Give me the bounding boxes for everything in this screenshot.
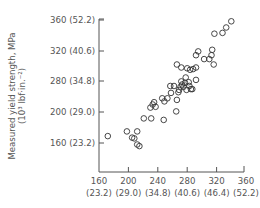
- y-tick-label: 320 (40.6): [50, 46, 95, 56]
- data-point-circle: [105, 133, 111, 139]
- data-point-circle: [179, 65, 185, 71]
- scatter-chart: 360 (52.2)320 (40.6)280 (34.8)200 (29.0)…: [0, 0, 260, 208]
- data-point-circle: [229, 19, 235, 25]
- y-axis-title-line2: (10³ lbf·in.⁻²): [17, 68, 27, 124]
- data-point-circle: [148, 116, 154, 122]
- y-tick-label: 200 (29.0): [50, 107, 95, 117]
- data-point-circle: [211, 62, 217, 68]
- y-axis-title-line1: Measured yield strength, MPa: [7, 32, 17, 159]
- data-point-circle: [134, 129, 140, 135]
- x-tick-label: 240: [150, 176, 166, 186]
- x-tick-sublabel: (40.6): [174, 188, 200, 198]
- x-tick-sublabel: (46.4): [204, 188, 230, 198]
- x-tick-label: 160: [91, 176, 107, 186]
- data-point-circle: [171, 83, 177, 89]
- data-point-circle: [161, 117, 167, 123]
- y-tick-label: 360 (52.2): [50, 15, 95, 25]
- y-axis-title: Measured yield strength, MPa (10³ lbf·in…: [7, 32, 27, 159]
- x-tick-sublabel: (23.2): [86, 188, 112, 198]
- data-point-circle: [220, 30, 226, 36]
- data-point-circle: [209, 47, 215, 53]
- data-point-circle: [141, 116, 147, 122]
- data-point-circle: [193, 77, 199, 83]
- y-tick-label: 160 (23.2): [50, 138, 95, 148]
- y-tick-label: 280 (34.8): [50, 76, 95, 86]
- x-tick-label: 360: [238, 176, 254, 186]
- data-point-circle: [168, 90, 174, 96]
- x-tick-label: 320: [208, 176, 224, 186]
- x-tick-sublabel: (29.0): [115, 188, 141, 198]
- x-tick-label: 280: [179, 176, 195, 186]
- x-tick-label: 200: [120, 176, 136, 186]
- data-point-circle: [223, 25, 229, 31]
- data-point-circle: [174, 97, 180, 103]
- x-tick-sublabel: (52.2): [233, 188, 259, 198]
- y-axis-ticks: 360 (52.2)320 (40.6)280 (34.8)200 (29.0)…: [50, 15, 104, 148]
- data-point-circle: [212, 31, 218, 37]
- x-tick-sublabel: (34.8): [145, 188, 171, 198]
- data-point-circle: [124, 129, 130, 135]
- data-points: [105, 19, 234, 149]
- data-point-circle: [173, 109, 179, 115]
